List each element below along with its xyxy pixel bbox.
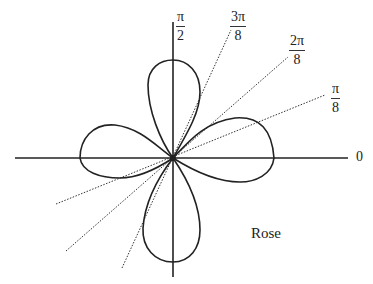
label-pi-over-8: π8	[331, 82, 340, 115]
diagram-title: Rose	[251, 226, 281, 241]
label-3pi-over-8: 3π8	[230, 10, 246, 43]
ray-3pi-over-8	[122, 30, 231, 268]
rose-curve	[80, 60, 274, 262]
label-2pi-over-8: 2π8	[289, 34, 305, 67]
label-pi-over-2: π2	[176, 10, 185, 43]
rose-plot	[0, 0, 373, 284]
label-zero: 0	[356, 150, 363, 164]
origin-point	[170, 155, 176, 161]
